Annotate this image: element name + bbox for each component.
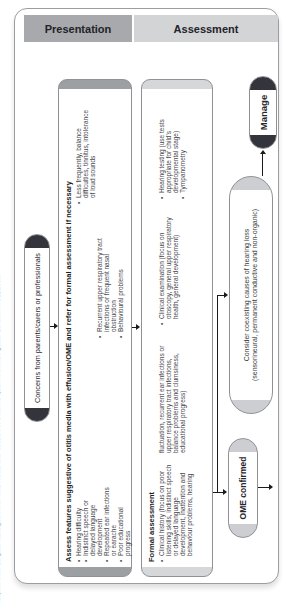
formal-bullet-col1: Clinical history (focus on poor listenin… (158, 462, 193, 562)
ome-confirmed-pill: OME confirmed (228, 438, 258, 538)
flowchart-canvas: Concerns from parents/carers or professi… (24, 45, 280, 585)
concerns-pill-label: Concerns from parents/carers or professi… (33, 253, 42, 403)
bullet-item: Clinical history (focus on poor listenin… (158, 462, 193, 562)
bullet-item: Poor educational progress (117, 486, 131, 562)
arrow-right-icon (260, 150, 266, 154)
bullet-item: Clinical examination (focus on otoscopy,… (158, 213, 179, 325)
connector-line (217, 295, 218, 493)
figure-page: Adapted from Surgical management of otit… (0, 0, 285, 608)
assess-box-heading: Assess features suggestive of otitis med… (64, 80, 73, 562)
consider-causes-line1: Consider coexisting causes of hearing lo… (243, 229, 252, 362)
assess-bullet-col2: Less frequently, balance difficulties, t… (75, 106, 124, 338)
formal-box-heading: Formal assessment (147, 80, 156, 562)
header-assessment: Assessment (134, 15, 278, 42)
arrow-down-icon (223, 490, 227, 496)
consider-causes-pill: Consider coexisting causes of hearing lo… (229, 176, 273, 414)
concerns-pill: Concerns from parents/carers or professi… (24, 234, 50, 422)
pathway-frame: Presentation Assessment Concerns from pa… (14, 8, 279, 584)
arrow-down-icon (136, 325, 140, 331)
assess-bullet-columns: Hearing difficulty Indistinct speech or … (75, 80, 131, 576)
flowchart-rotated-area: Concerns from parents/carers or professi… (24, 45, 280, 585)
header-presentation: Presentation (24, 15, 132, 42)
formal-bullet-columns: Clinical history (focus on poor listenin… (158, 80, 193, 576)
assess-bullet-col1: Hearing difficulty Indistinct speech or … (75, 486, 131, 562)
connector-line (258, 487, 269, 488)
arrow-down-icon (54, 324, 58, 330)
consider-causes-line2: (sensorineural, permanent conductive and… (251, 209, 260, 381)
connector-line (262, 153, 263, 176)
bullet-item: Indistinct speech or delayed language de… (82, 486, 103, 562)
bullet-item: Recurrent upper respiratory tract infect… (96, 230, 117, 338)
connector-line (213, 492, 223, 493)
bullet-item: Less frequently, balance difficulties, t… (75, 106, 96, 204)
arrow-down-icon (269, 485, 273, 491)
formal-bullet-col4: Hearing testing (use tests appropriate f… (158, 105, 186, 199)
assess-features-box: Assess features suggestive of otitis med… (58, 79, 132, 577)
bullet-item: Behavioural problems (117, 230, 124, 338)
formal-bullet-col3: Clinical examination (focus on otoscopy,… (158, 213, 179, 325)
formal-assessment-box: Formal assessment Clinical history (focu… (141, 79, 213, 577)
manage-label: Manage (258, 95, 269, 130)
arrow-down-icon (224, 293, 228, 299)
bullet-item: Tympanometry (179, 105, 186, 199)
bullet-item: Repeated ear infections or earache (103, 486, 117, 562)
bullet-continuation: fluctuation, recurrent ear infections or… (158, 343, 186, 453)
column-header-band: Presentation Assessment (24, 15, 278, 42)
manage-pill: Manage (249, 76, 277, 149)
figure-source-caption: Adapted from Surgical management of otit… (0, 274, 1, 605)
formal-bullet-col2: fluctuation, recurrent ear infections or… (158, 343, 186, 453)
bullet-item: Hearing difficulty (75, 486, 82, 562)
ome-confirmed-label: OME confirmed (238, 457, 248, 520)
connector-line (217, 295, 224, 296)
bullet-item: Hearing testing (use tests appropriate f… (158, 105, 179, 199)
